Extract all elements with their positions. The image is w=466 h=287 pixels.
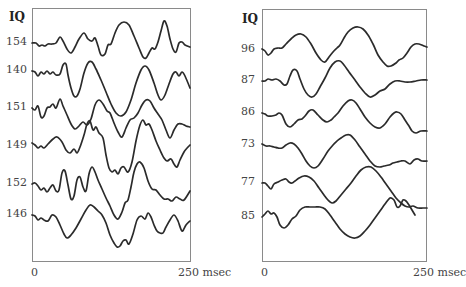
trace-iq-154	[32, 21, 190, 59]
trace-iq-149	[32, 120, 190, 174]
trace-iq-85	[262, 198, 415, 238]
trace-iq-87	[262, 61, 427, 97]
trace-iq-86	[262, 100, 427, 133]
trace-iq-96	[262, 27, 427, 67]
trace-iq-146	[32, 205, 190, 247]
trace-iq-73	[262, 135, 427, 168]
